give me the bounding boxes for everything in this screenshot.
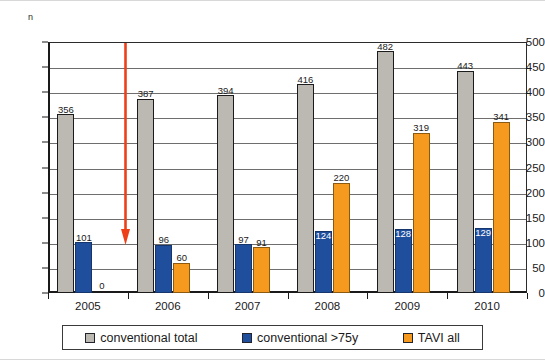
bar-total-2009: 482 — [377, 51, 394, 293]
bar-total-2006: 387 — [137, 99, 154, 293]
bar-total-2008: 416 — [297, 84, 314, 293]
bar-total-2007: 394 — [217, 95, 234, 293]
bar-tavi-2009: 319 — [413, 133, 430, 293]
bar-value-label: 91 — [256, 238, 267, 248]
bar-over75-2005: 101 — [75, 242, 92, 293]
bar-value-label: 101 — [76, 233, 92, 243]
bar-value-label: 356 — [58, 105, 74, 115]
bar-over75-2007: 97 — [235, 244, 252, 293]
bar-value-label: 387 — [138, 89, 154, 99]
x-tick-label-2005: 2005 — [75, 300, 101, 312]
x-tick-mark — [48, 293, 49, 299]
bar-value-label: 129 — [475, 228, 491, 238]
bar-tavi-2008: 220 — [333, 183, 350, 293]
x-tick-label-2006: 2006 — [155, 300, 181, 312]
x-tick-label-2009: 2009 — [394, 300, 420, 312]
legend-item: TAVI all — [403, 331, 460, 345]
legend-label: TAVI all — [418, 331, 460, 345]
bar-group: 482128319 — [367, 42, 447, 293]
scan-edge-top — [0, 0, 545, 1]
bar-value-label: 96 — [158, 235, 169, 245]
bar-total-2010: 443 — [457, 71, 474, 293]
bar-value-label: 482 — [377, 42, 393, 52]
x-tick-label-2008: 2008 — [315, 300, 341, 312]
bar-value-label: 416 — [297, 75, 313, 85]
bar-value-label: 443 — [457, 61, 473, 71]
bar-over75-2010: 129 — [475, 228, 492, 293]
bar-tavi-2007: 91 — [253, 247, 270, 293]
bar-over75-2008: 124 — [315, 231, 332, 293]
bar-chart-figure: n 050100150200250300350400450500 3561010… — [0, 0, 545, 360]
bar-value-label: 341 — [493, 112, 509, 122]
bar-value-label: 394 — [218, 86, 234, 96]
bar-group: 3879660 — [128, 42, 208, 293]
bar-tavi-2010: 341 — [493, 122, 510, 293]
bar-tavi-2006: 60 — [173, 263, 190, 293]
legend-swatch-icon — [242, 333, 252, 343]
bar-group: 443129341 — [447, 42, 527, 293]
bar-value-label: 124 — [315, 231, 331, 241]
x-tick-mark — [367, 293, 368, 299]
bar-over75-2009: 128 — [395, 229, 412, 293]
legend-swatch-icon — [85, 333, 95, 343]
x-tick-mark — [128, 293, 129, 299]
bar-total-2005: 356 — [57, 114, 74, 293]
chart-legend: conventional totalconventional >75yTAVI … — [62, 325, 483, 350]
x-tick-mark — [527, 293, 528, 299]
bar-value-label: 128 — [395, 229, 411, 239]
bar-value-label-zero: 0 — [99, 280, 104, 291]
bar-value-label: 97 — [238, 235, 249, 245]
bar-group: 416124220 — [288, 42, 368, 293]
legend-item: conventional total — [85, 331, 197, 345]
legend-item: conventional >75y — [242, 331, 358, 345]
x-tick-label-2010: 2010 — [474, 300, 500, 312]
bar-over75-2006: 96 — [155, 245, 172, 293]
x-tick-mark — [288, 293, 289, 299]
bar-value-label: 60 — [176, 253, 187, 263]
y-axis-unit-label: n — [28, 12, 34, 22]
x-tick-label-2007: 2007 — [235, 300, 261, 312]
bar-value-label: 319 — [413, 123, 429, 133]
bar-group: 3949791 — [208, 42, 288, 293]
legend-swatch-icon — [403, 333, 413, 343]
bar-group: 3561010 — [48, 42, 128, 293]
x-tick-mark — [447, 293, 448, 299]
x-tick-mark — [208, 293, 209, 299]
bar-value-label: 220 — [333, 173, 349, 183]
legend-label: conventional >75y — [257, 331, 358, 345]
legend-label: conventional total — [100, 331, 197, 345]
x-axis: 200520062007200820092010 — [48, 293, 527, 317]
